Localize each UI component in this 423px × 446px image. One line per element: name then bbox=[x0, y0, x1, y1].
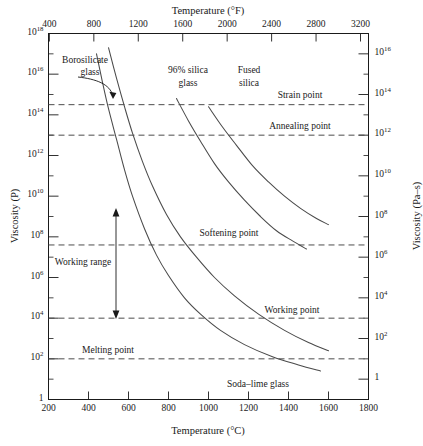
label-melting-point: Melting point bbox=[82, 346, 134, 356]
label-strain-point: Strain point bbox=[278, 91, 323, 101]
top-tick-label-2000: 2000 bbox=[218, 20, 237, 30]
working-range-arrow-head-up bbox=[113, 208, 120, 216]
left-tick-label-10e16: 1016 bbox=[27, 68, 43, 78]
bottom-tick-label-800: 800 bbox=[161, 404, 175, 414]
borosilicate-arrow-head bbox=[109, 92, 116, 99]
bottom-tick-label-1200: 1200 bbox=[239, 404, 258, 414]
left-tick-label-10e18: 1018 bbox=[27, 28, 43, 38]
bottom-axis-ticks bbox=[49, 392, 369, 400]
right-axis-ticks bbox=[359, 34, 369, 380]
label-96-silica-line2: glass bbox=[179, 79, 198, 89]
left-tick-label-10e8: 108 bbox=[31, 231, 44, 241]
left-tick-label-10e12: 1012 bbox=[27, 150, 43, 160]
left-tick-label-10e6: 106 bbox=[31, 272, 44, 282]
right-tick-label-1: 1 bbox=[375, 373, 380, 383]
left-axis-ticks bbox=[49, 34, 59, 400]
left-tick-label-10e2: 102 bbox=[31, 353, 44, 363]
bottom-tick-label-200: 200 bbox=[41, 404, 55, 414]
top-axis-title: Temperature (°F) bbox=[172, 6, 245, 17]
right-tick-label-10e8: 108 bbox=[375, 211, 388, 221]
bottom-tick-label-1000: 1000 bbox=[199, 404, 218, 414]
bottom-tick-label-1600: 1600 bbox=[319, 404, 338, 414]
right-tick-label-10e16: 1016 bbox=[375, 48, 391, 58]
right-tick-label-10e6: 106 bbox=[375, 251, 388, 261]
label-borosilicate-line2: glass bbox=[81, 68, 100, 78]
label-96-silica-line1: 96% silica bbox=[168, 66, 208, 76]
label-borosilicate-line1: Borosilicate bbox=[62, 56, 108, 66]
top-axis-ticks bbox=[49, 34, 360, 42]
bottom-axis-title: Temperature (°C) bbox=[171, 426, 245, 437]
top-tick-label-1200: 1200 bbox=[129, 20, 148, 30]
right-tick-label-10e10: 1010 bbox=[375, 170, 391, 180]
left-tick-label-10e4: 104 bbox=[31, 312, 44, 322]
right-tick-label-10e14: 1014 bbox=[375, 89, 391, 99]
right-tick-label-10e2: 102 bbox=[375, 333, 388, 343]
right-tick-label-10e4: 104 bbox=[375, 292, 388, 302]
borosilicate-arrow-curve bbox=[78, 77, 113, 96]
top-tick-label-400: 400 bbox=[42, 20, 56, 30]
left-tick-label-1: 1 bbox=[39, 394, 44, 404]
top-tick-label-2800: 2800 bbox=[307, 20, 326, 30]
top-tick-label-3200: 3200 bbox=[351, 20, 370, 30]
bottom-tick-label-600: 600 bbox=[121, 404, 135, 414]
label-fused-silica-line2: silica bbox=[239, 79, 259, 89]
right-tick-label-10e12: 1012 bbox=[375, 129, 391, 139]
bottom-tick-label-1800: 1800 bbox=[359, 404, 378, 414]
left-tick-label-10e14: 1014 bbox=[27, 109, 43, 119]
right-axis-title: Viscosity (Pa–s) bbox=[412, 182, 423, 251]
label-working-range: Working range bbox=[55, 258, 111, 268]
annotation-arrows bbox=[78, 77, 119, 319]
label-working-point: Working point bbox=[265, 306, 320, 316]
top-tick-label-2400: 2400 bbox=[262, 20, 281, 30]
curve-sodalime-glass bbox=[97, 54, 321, 371]
top-tick-label-800: 800 bbox=[87, 20, 101, 30]
left-axis-title: Viscosity (P) bbox=[10, 189, 21, 244]
label-fused-silica-line1: Fused bbox=[238, 66, 261, 76]
label-annealing-point: Annealing point bbox=[269, 122, 330, 132]
bottom-tick-label-400: 400 bbox=[81, 404, 95, 414]
label-soda-lime-glass: Soda–lime glass bbox=[227, 380, 289, 390]
label-softening-point: Softening point bbox=[200, 229, 259, 239]
left-tick-label-10e10: 1010 bbox=[27, 190, 43, 200]
top-tick-label-1600: 1600 bbox=[173, 20, 192, 30]
bottom-tick-label-1400: 1400 bbox=[279, 404, 298, 414]
